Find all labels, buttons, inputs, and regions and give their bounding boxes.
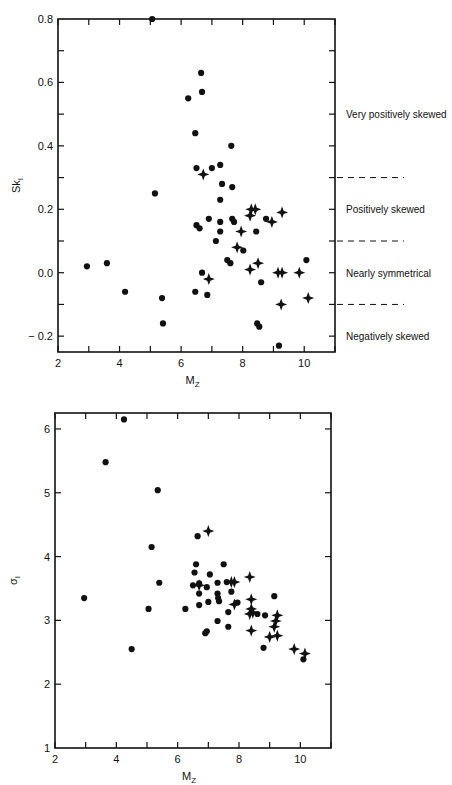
x-tick-label: 4 xyxy=(116,357,122,369)
y-tick-label: 0.2 xyxy=(38,203,53,215)
y-axis-title: σI xyxy=(7,576,22,585)
data-point-dot xyxy=(216,598,222,604)
data-point-dot xyxy=(149,544,155,550)
data-point-dot xyxy=(225,624,231,630)
data-point-dot xyxy=(263,216,269,222)
data-point-dot xyxy=(217,197,223,203)
data-point-dot xyxy=(104,260,110,266)
data-point-dot xyxy=(185,95,191,101)
data-point-star xyxy=(235,225,247,237)
data-point-dot xyxy=(213,238,219,244)
data-point-dot xyxy=(258,279,264,285)
data-point-dot xyxy=(84,263,90,269)
data-point-dot xyxy=(182,606,188,612)
x-tick-label: 4 xyxy=(113,753,119,765)
data-point-dot xyxy=(196,602,202,608)
x-tick-label: 6 xyxy=(178,357,184,369)
data-point-dot xyxy=(122,289,128,295)
x-axis-title: MZ xyxy=(185,374,199,389)
data-point-dot xyxy=(303,257,309,263)
data-point-dot xyxy=(209,165,215,171)
data-point-dot xyxy=(228,589,234,595)
y-tick-label: 5 xyxy=(44,487,50,499)
data-point-dot xyxy=(192,289,198,295)
zone-label: Positively skewed xyxy=(346,204,425,215)
data-point-dot xyxy=(199,270,205,276)
data-point-dot xyxy=(204,292,210,298)
data-point-dot xyxy=(271,593,277,599)
plot-frame xyxy=(55,413,331,748)
data-point-dot xyxy=(152,190,158,196)
x-axis-title: MZ xyxy=(182,770,196,785)
data-point-dot xyxy=(253,228,259,234)
y-tick-label: 0.8 xyxy=(38,13,53,25)
y-tick-label: 6 xyxy=(44,423,50,435)
data-point-star xyxy=(244,571,256,583)
data-point-dot xyxy=(159,295,165,301)
data-point-star xyxy=(244,264,256,276)
data-point-dot xyxy=(256,324,262,330)
data-point-star xyxy=(302,292,314,304)
data-point-star xyxy=(202,525,214,537)
figure-canvas: 246810− 0.20.00.20.40.60.8MZSkIVery posi… xyxy=(0,0,452,785)
data-point-dot xyxy=(192,130,198,136)
data-point-dot xyxy=(103,459,109,465)
data-point-dot xyxy=(207,571,213,577)
y-tick-label: 1 xyxy=(44,742,50,754)
data-point-dot xyxy=(149,16,155,22)
y-tick-label: 0.0 xyxy=(38,267,53,279)
data-point-star xyxy=(275,298,287,310)
y-axis-title: SkI xyxy=(10,178,25,193)
data-point-dot xyxy=(199,89,205,95)
data-point-dot xyxy=(204,628,210,634)
x-tick-label: 8 xyxy=(240,357,246,369)
data-point-dot xyxy=(156,580,162,586)
data-point-dot xyxy=(195,533,201,539)
data-point-dot xyxy=(217,219,223,225)
data-point-dot xyxy=(214,618,220,624)
data-point-dot xyxy=(160,320,166,326)
y-tick-label: 4 xyxy=(44,551,50,563)
data-point-dot xyxy=(205,599,211,605)
data-point-dot xyxy=(240,247,246,253)
data-point-star xyxy=(203,273,215,285)
data-point-dot xyxy=(191,569,197,575)
data-point-dot xyxy=(225,609,231,615)
x-tick-label: 2 xyxy=(55,357,61,369)
data-point-dot xyxy=(196,590,202,596)
data-point-dot xyxy=(155,487,161,493)
data-point-star xyxy=(268,621,280,633)
plot-frame xyxy=(58,19,335,352)
x-tick-label: 8 xyxy=(236,753,242,765)
data-point-star xyxy=(193,579,205,591)
data-point-dot xyxy=(260,645,266,651)
x-tick-label: 10 xyxy=(298,357,310,369)
data-point-dot xyxy=(217,162,223,168)
sorting-vs-mz-chart: 246810123456MZσI xyxy=(7,413,331,785)
data-point-star xyxy=(288,643,300,655)
data-point-dot xyxy=(129,646,135,652)
zone-label: Negatively skewed xyxy=(346,331,429,342)
data-point-dot xyxy=(219,181,225,187)
data-point-star xyxy=(252,257,264,269)
y-tick-label: 0.6 xyxy=(38,76,53,88)
data-point-star xyxy=(276,206,288,218)
data-point-dot xyxy=(121,416,127,422)
data-point-dot xyxy=(227,260,233,266)
data-point-dot xyxy=(221,561,227,567)
data-point-dot xyxy=(231,219,237,225)
data-point-dot xyxy=(206,216,212,222)
y-tick-label: 2 xyxy=(44,678,50,690)
x-tick-label: 2 xyxy=(52,753,58,765)
skewness-vs-mz-chart: 246810− 0.20.00.20.40.60.8MZSkIVery posi… xyxy=(10,13,447,389)
data-point-dot xyxy=(262,612,268,618)
data-point-dot xyxy=(204,584,210,590)
zone-label: Very positively skewed xyxy=(346,109,447,120)
x-tick-label: 6 xyxy=(175,753,181,765)
y-tick-label: 0.4 xyxy=(38,140,53,152)
x-tick-label: 10 xyxy=(294,753,306,765)
data-point-dot xyxy=(228,143,234,149)
data-point-dot xyxy=(198,70,204,76)
data-point-dot xyxy=(193,165,199,171)
data-point-dot xyxy=(276,343,282,349)
